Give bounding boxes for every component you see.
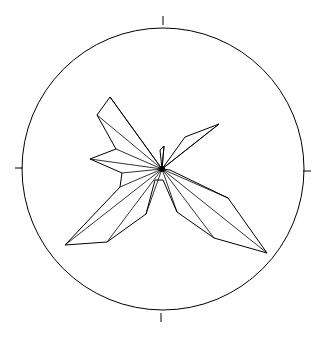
rose-spoke — [97, 115, 162, 169]
rose-diagram — [0, 0, 324, 338]
center-point — [159, 166, 165, 172]
rose-outline — [65, 97, 267, 253]
rose-spoke — [122, 169, 162, 173]
rose-spokes — [65, 97, 267, 253]
rose-spoke — [162, 169, 214, 238]
rose-spoke — [162, 169, 267, 253]
